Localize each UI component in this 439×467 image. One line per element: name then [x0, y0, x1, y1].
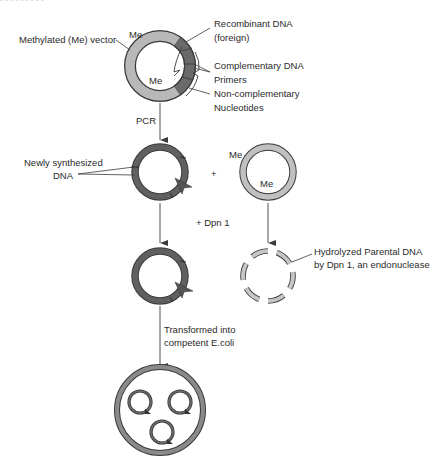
label-recombinant-dna: Recombinant DNA [214, 17, 293, 31]
label-hydrolyzed-dpn: by Dpn 1, an endonuclease [314, 258, 430, 272]
mutant-plasmid [135, 251, 193, 302]
newly-synthesized-plasmid [131, 147, 192, 198]
label-nucleotides: Nucleotides [214, 101, 264, 115]
hydrolyzed-parental-dna [243, 251, 293, 301]
parent-methyl-label-inner: Me [260, 178, 273, 189]
methyl-label-inner: Me [149, 75, 162, 86]
label-transformed-line1: Transformed into [164, 323, 235, 337]
ecoli-cell [117, 367, 203, 453]
methylated-vector-plasmid [130, 36, 195, 96]
label-plus: + [211, 167, 217, 181]
parental-methylated-plasmid [243, 147, 293, 197]
label-pcr: PCR [136, 114, 156, 128]
parent-methyl-label-top: Me [229, 149, 242, 160]
label-complementary-dna: Complementary DNA [214, 59, 304, 73]
label-non-complementary: Non-complementary [214, 87, 300, 101]
label-hydrolyzed-parental: Hydrolyzed Parental DNA [314, 245, 422, 259]
label-methylated-vector: Methylated (Me) vector [19, 33, 116, 47]
label-newly-synthesized: Newly synthesized [24, 156, 103, 170]
label-recombinant-foreign: (foreign) [214, 31, 249, 45]
label-primers: Primers [214, 73, 247, 87]
label-dpn1: + Dpn 1 [196, 216, 230, 230]
label-newly-synthesized-dna: DNA [53, 169, 73, 183]
label-transformed-line2: competent E.coli [164, 336, 234, 350]
methyl-label-top: Me [129, 29, 142, 40]
